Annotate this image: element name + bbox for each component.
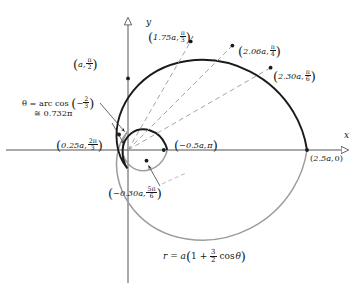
dot-a-pi-2 bbox=[126, 77, 130, 81]
dot-neg-0-5a-pi bbox=[162, 148, 166, 152]
dashed-ray-pi-3 bbox=[128, 41, 191, 150]
label-point-2-30a-pi-6: (2.30a, π6) bbox=[273, 69, 316, 83]
dot-2-06a-pi-4 bbox=[231, 44, 235, 48]
label-point-a-pi-2: (a, π2) bbox=[73, 57, 98, 71]
label-point-1-75a-pi-3: (1.75a, π3) bbox=[148, 30, 191, 44]
dot-2-30a-pi-6 bbox=[269, 66, 273, 70]
dot-neg-0-30a-5pi-6 bbox=[145, 159, 149, 163]
label-point-neg-0-30a-5pi-6: (−0.30a, 5π6) bbox=[108, 186, 162, 200]
dashed-ray-pi-6 bbox=[128, 68, 271, 150]
label-point-2-5a-0: (2.5a, 0) bbox=[310, 154, 343, 163]
y-axis-label: y bbox=[146, 18, 151, 27]
label-point-0-25a-2pi-3: (0.25a, 2π3) bbox=[56, 138, 103, 152]
curve-equation: r = a(1 + 32 cos θ) bbox=[163, 249, 246, 264]
leader-neg-0-30a-dashed bbox=[162, 173, 186, 184]
label-point-2-06a-pi-4: (2.06a, π4) bbox=[238, 44, 281, 58]
label-point-neg-0-5a-pi: (−0.5a, π) bbox=[174, 139, 218, 153]
theta-note-approx: ≅ 0.732π bbox=[34, 109, 72, 118]
leader-1-75a bbox=[192, 36, 194, 39]
dot-2-5a-0 bbox=[305, 148, 309, 152]
leader-theta-note bbox=[100, 103, 125, 132]
polar-plot-figure: y x θ = arc cos (−23) ≅ 0.732π (1.75a, π… bbox=[0, 0, 364, 289]
x-axis-label: x bbox=[344, 131, 349, 140]
